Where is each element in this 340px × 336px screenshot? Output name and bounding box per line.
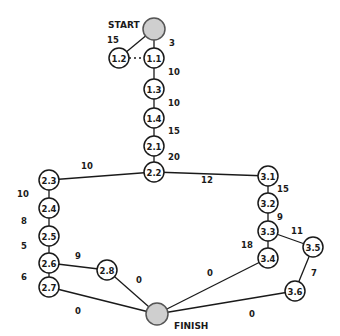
task-node-1.4: 1.4 — [144, 108, 164, 128]
task-node-1.1: 1.1 — [144, 48, 164, 68]
edge-3.4-FINISH — [157, 258, 268, 314]
task-node-3.4: 3.4 — [258, 248, 278, 268]
node-label: 2.5 — [41, 232, 56, 242]
edge-weight: 8 — [21, 216, 27, 226]
nodes-layer: 1.11.21.31.42.12.22.32.42.52.62.72.83.13… — [39, 18, 323, 325]
edge-weight: 0 — [207, 268, 213, 278]
node-label: 3.1 — [260, 172, 275, 182]
edge-weight: 15 — [277, 184, 289, 194]
node-label: 1.1 — [146, 54, 161, 64]
edge-weight: 18 — [241, 240, 253, 250]
edge-weight: 12 — [201, 175, 213, 185]
finish-node — [146, 303, 168, 325]
edge-weight: 3 — [169, 38, 175, 48]
start-node — [143, 18, 165, 40]
network-diagram: 153101015201012108569001591811070 1.11.2… — [0, 0, 340, 336]
task-node-2.4: 2.4 — [39, 198, 59, 218]
task-node-3.3: 3.3 — [258, 221, 278, 241]
node-label: 2.4 — [41, 204, 56, 214]
edge-weight: 7 — [311, 268, 317, 278]
node-label: 3.2 — [260, 199, 275, 209]
node-label: 3.4 — [260, 254, 275, 264]
edge-weight: 15 — [107, 35, 119, 45]
node-label: 1.4 — [146, 114, 161, 124]
edge-weight: 9 — [75, 251, 81, 261]
node-label: 3.5 — [305, 243, 320, 253]
edge-weight: 10 — [81, 161, 93, 171]
edge-weight: 10 — [17, 189, 29, 199]
task-node-2.5: 2.5 — [39, 226, 59, 246]
node-label: 2.7 — [41, 283, 56, 293]
edge-weight: 6 — [21, 272, 27, 282]
task-node-3.2: 3.2 — [258, 193, 278, 213]
edge-weight: 0 — [249, 309, 255, 319]
edge-weight: 5 — [21, 241, 27, 251]
node-label: 3.6 — [287, 287, 302, 297]
edge-weight: 15 — [168, 126, 180, 136]
task-node-3.6: 3.6 — [285, 281, 305, 301]
edge-weight: 0 — [75, 306, 81, 316]
task-node-2.3: 2.3 — [39, 170, 59, 190]
edge-2.2-2.3 — [49, 172, 154, 180]
node-label: 1.3 — [146, 85, 161, 95]
start-label: START — [108, 20, 140, 30]
node-circle — [146, 303, 168, 325]
node-label: 2.8 — [99, 266, 114, 276]
node-label: 2.3 — [41, 176, 56, 186]
task-node-2.6: 2.6 — [39, 253, 59, 273]
node-label: 2.2 — [146, 168, 161, 178]
task-node-1.3: 1.3 — [144, 79, 164, 99]
edge-weight: 0 — [136, 275, 142, 285]
task-node-3.5: 3.5 — [303, 237, 323, 257]
edge-weight: 11 — [291, 226, 303, 236]
node-circle — [143, 18, 165, 40]
edge-weight: 10 — [168, 67, 180, 77]
node-label: 3.3 — [260, 227, 275, 237]
finish-label: FINISH — [174, 321, 208, 331]
edge-weight: 9 — [277, 212, 283, 222]
node-label: 2.6 — [41, 259, 56, 269]
task-node-2.1: 2.1 — [144, 136, 164, 156]
task-node-1.2: 1.2 — [109, 48, 129, 68]
task-node-2.2: 2.2 — [144, 162, 164, 182]
node-label: 1.2 — [111, 54, 126, 64]
node-label: 2.1 — [146, 142, 161, 152]
edge-weight: 20 — [168, 152, 180, 162]
task-node-2.8: 2.8 — [97, 260, 117, 280]
task-node-2.7: 2.7 — [39, 277, 59, 297]
edge-weight: 10 — [168, 98, 180, 108]
edge-3.6-FINISH — [157, 291, 295, 314]
task-node-3.1: 3.1 — [258, 166, 278, 186]
